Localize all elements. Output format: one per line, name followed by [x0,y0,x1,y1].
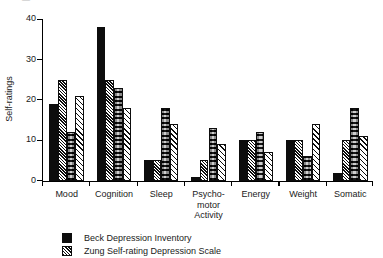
x-axis-category-label: Sleep [138,189,185,200]
x-axis-tick [184,181,185,186]
bar [294,140,303,180]
artifact-mark-4: · [345,0,348,4]
x-axis-tick [326,181,327,186]
artifact-mark-1: · [110,0,113,4]
x-axis-line [42,181,373,182]
y-axis-tick [37,99,42,100]
bar [209,128,218,180]
y-axis-tick-label: 40 [16,14,36,23]
bar [342,140,351,180]
x-axis-tick [372,181,373,186]
clipped-text-artifact: — · · · · [0,0,383,9]
x-axis-category-label: Energy [232,189,279,200]
y-axis-tick-label: 20 [16,95,36,104]
x-axis-category-label: Somatic [327,189,374,200]
bar [75,96,84,181]
bar [264,152,273,180]
x-axis-category-label: Cognition [90,189,137,200]
bar [350,108,359,181]
y-axis-tick [37,19,42,20]
bar [144,160,153,180]
bar [97,27,106,180]
x-axis-tick [231,181,232,186]
bar [247,140,256,180]
y-axis-tick-label: 10 [16,135,36,144]
bar-chart-figure: — · · · · Self-ratings 010203040MoodCogn… [0,0,383,258]
bar [303,156,312,180]
bar [153,160,162,180]
bar [217,144,226,180]
artifact-mark-3: · [268,0,271,4]
x-axis-tick [89,181,90,186]
legend-swatch-icon [62,246,72,256]
y-axis-tick-label: 0 [16,176,36,185]
y-axis-title: Self-ratings [4,59,14,139]
legend-label: Zung Self-rating Depression Scale [84,245,221,257]
bar [49,104,58,181]
bar [58,80,67,181]
legend-swatch-icon [62,233,72,243]
bar [200,160,209,180]
bar [333,173,342,181]
y-axis-tick [37,59,42,60]
artifact-mark-0: — [22,0,30,4]
bar [286,140,295,180]
bar [161,108,170,181]
x-axis-category-label: Weight [279,189,326,200]
bar [105,80,114,181]
x-axis-category-label: Mood [43,189,90,200]
x-axis-tick [137,181,138,186]
bar [67,132,76,180]
bar [191,177,200,181]
bar [170,124,179,180]
bar [114,88,123,181]
y-axis-tick [37,140,42,141]
bar [359,136,368,180]
artifact-mark-2: · [143,0,146,4]
bar [312,124,321,180]
x-axis-tick [278,181,279,186]
y-axis-line [42,19,43,182]
x-axis-category-label: Psycho- motor Activity [185,189,232,221]
x-axis-tick [42,181,43,186]
plot-area: 010203040MoodCognitionSleepPsycho- motor… [42,19,373,182]
legend-label: Beck Depression Inventory [84,232,192,244]
bar [123,108,132,181]
y-axis-tick-label: 30 [16,55,36,64]
bar [239,140,248,180]
bar [256,132,265,180]
